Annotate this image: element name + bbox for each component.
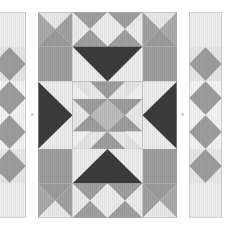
corner-square-tr — [143, 47, 178, 82]
registration-pin-right — [181, 113, 184, 116]
registration-pin-left — [31, 113, 34, 116]
left-panel-top-band — [0, 12, 26, 47]
right-panel-bottom-band — [189, 183, 222, 218]
left-panel-artwork — [0, 12, 26, 218]
hourglass-row-bottom — [38, 184, 177, 219]
right-panel[interactable] — [189, 12, 222, 218]
hourglass-row-top — [38, 12, 177, 47]
left-panel-diamond-chain — [0, 47, 26, 183]
corner-square-br — [143, 149, 178, 184]
right-panel-diamond-chain — [189, 47, 222, 183]
right-panel-top-band — [189, 12, 222, 47]
corner-square-bl — [38, 149, 73, 184]
eight-point-star — [73, 82, 143, 150]
corner-square-tl — [38, 47, 73, 82]
quilt-stage — [0, 0, 228, 230]
right-panel-artwork — [189, 12, 222, 218]
center-panel-artwork — [38, 12, 177, 218]
left-panel-bottom-band — [0, 183, 26, 218]
left-panel[interactable] — [0, 12, 26, 218]
center-panel[interactable] — [38, 12, 177, 218]
